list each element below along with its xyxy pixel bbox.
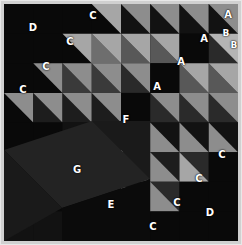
cell-r0-c2 [63, 4, 93, 34]
quilt-svg [4, 4, 238, 241]
cell-r7-c5 [150, 211, 180, 241]
cell-r6-c7 [209, 182, 238, 212]
cell-r7-c7 [209, 211, 238, 241]
cell-r1-c6 [180, 34, 210, 64]
cell-r7-c6 [180, 211, 210, 241]
diagram-figure: DCCCCAABBAAFCCCCDGE [0, 0, 242, 245]
cell-r1-c0 [4, 34, 34, 64]
cell-r2-c5 [150, 63, 180, 93]
quilt-board: DCCCCAABBAAFCCCCDGE [4, 4, 238, 241]
cell-r5-c7 [209, 152, 238, 182]
cell-r0-c0 [4, 4, 34, 34]
cell-r2-c0 [4, 63, 34, 93]
cell-r1-c1 [33, 34, 63, 64]
cell-r6-c6 [180, 182, 210, 212]
cell-r0-c1 [33, 4, 63, 34]
cell-r3-c4 [121, 93, 151, 123]
